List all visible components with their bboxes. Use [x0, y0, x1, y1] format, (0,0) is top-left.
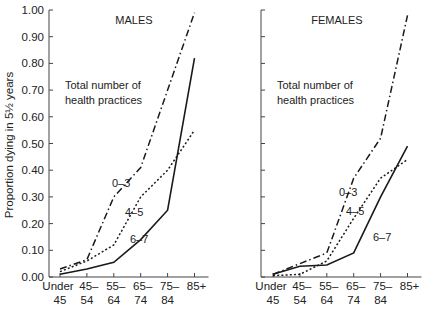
annotation-text: Total number of — [277, 79, 354, 91]
x-tick-label-line2: 74 — [347, 294, 360, 306]
x-tick-label-line2: 54 — [81, 294, 94, 306]
chart-figure: Proportion dying in 5½ years 0.000.100.2… — [0, 0, 426, 313]
x-tick-label: 55– — [319, 280, 339, 292]
x-tick-label: 85+ — [400, 280, 420, 292]
x-tick-label: Under — [42, 280, 73, 292]
x-tick-label-line2: 45 — [267, 294, 280, 306]
x-tick-label: Under — [255, 280, 286, 292]
y-tick-label: 0.10 — [22, 244, 44, 256]
annotation-text: health practices — [65, 94, 143, 106]
x-tick-label-line2: 64 — [107, 294, 120, 306]
series-label: 4–5 — [346, 205, 364, 217]
x-tick-label: 45– — [292, 280, 312, 292]
x-tick-label-line2: 64 — [320, 294, 333, 306]
x-tick-label: 75– — [373, 280, 393, 292]
series-line-0–3 — [60, 13, 195, 269]
y-tick-label: 1.00 — [22, 4, 44, 16]
x-tick-label: 45– — [79, 280, 99, 292]
series-label: 0–3 — [339, 186, 357, 198]
series-label: 0–3 — [112, 177, 130, 189]
annotation-text: health practices — [277, 94, 355, 106]
y-tick-label: 0.30 — [22, 191, 44, 203]
series-label: 6–7 — [373, 231, 391, 243]
y-tick-label: 0.40 — [22, 164, 44, 176]
x-tick-label: 65– — [346, 280, 366, 292]
x-tick-label-line2: 74 — [134, 294, 147, 306]
x-tick-label: 65– — [133, 280, 153, 292]
y-axis-label: Proportion dying in 5½ years — [3, 72, 15, 219]
series-line-6–7 — [273, 146, 408, 274]
annotation-text: Total number of — [65, 79, 142, 91]
x-tick-label-line2: 45 — [54, 294, 67, 306]
y-tick-label: 0.80 — [22, 57, 44, 69]
y-tick-label: 0.70 — [22, 84, 44, 96]
panel-title: FEMALES — [311, 14, 362, 26]
y-tick-label: 0.20 — [22, 218, 44, 230]
x-tick-label: 85+ — [187, 280, 207, 292]
series-label: 6–7 — [130, 233, 148, 245]
x-tick-label-line2: 84 — [161, 294, 174, 306]
x-tick-label-line2: 54 — [294, 294, 307, 306]
x-tick-label: 55– — [106, 280, 126, 292]
y-tick-label: 0.00 — [22, 271, 44, 283]
males-panel: 0.000.100.200.300.400.500.600.700.800.90… — [22, 4, 209, 306]
series-label: 4–5 — [125, 206, 143, 218]
females-panel: Under4545–5455–6465–7475–8485+FEMALESTot… — [255, 10, 421, 306]
y-tick-label: 0.50 — [22, 138, 44, 150]
y-tick-label: 0.90 — [22, 31, 44, 43]
y-tick-label: 0.60 — [22, 111, 44, 123]
x-tick-label-line2: 84 — [374, 294, 387, 306]
x-tick-label: 75– — [160, 280, 180, 292]
panel-title: MALES — [115, 14, 152, 26]
